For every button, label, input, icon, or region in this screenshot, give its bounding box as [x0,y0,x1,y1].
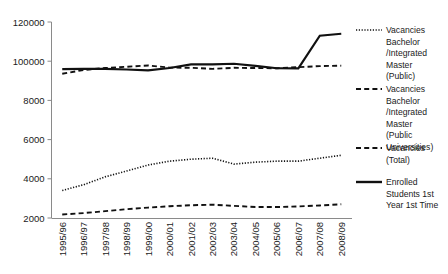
x-axis-tick-label: 2000/01 [164,222,175,256]
legend-item-label: Bachelor [386,96,420,106]
x-axis-tick-label: 2003/04 [228,222,239,256]
legend-item-label: Enrolled [386,177,418,187]
y-axis-tick-label: 2000 [23,213,44,224]
x-axis-tick-label: 2007/08 [314,222,325,256]
x-axis-tick-label: 1999/00 [143,222,154,256]
legend-item-label: /Integrated [386,107,427,117]
x-axis-tick-label: 2004/05 [250,222,261,256]
x-axis-tick-label: 1998/99 [121,222,132,256]
x-axis-tick-label: 1997/98 [100,222,111,256]
y-axis-tick-label: 4000 [23,173,44,184]
x-axis-tick-label: 2002/03 [207,222,218,256]
legend-item-label: (Public [386,130,413,140]
x-axis-tick-label: 2008/09 [336,222,347,256]
legend-item-label: Students 1st [386,189,434,199]
x-axis-tick-label: 1995/96 [57,222,68,256]
line-chart: 1200001000008000600040002000 1995/961996… [0,0,448,274]
legend-item-label: Master [386,60,412,70]
legend-item-label: /Integrated [386,48,427,58]
y-axis-tick-label: 6000 [23,134,44,145]
y-axis-tick-label: 100000 [13,56,45,67]
legend-item-label: (Public) [386,71,415,81]
x-axis-tick-label: 2001/02 [186,222,197,256]
legend-item-label: (Total) [386,155,410,165]
legend-item-label: Vacancies [386,25,425,35]
y-axis-tick-label: 8000 [23,95,44,106]
legend-item-label: Bachelor [386,37,420,47]
x-axis-tick-label: 2005/06 [271,222,282,256]
legend-item-label: Vacancies [386,84,425,94]
y-axis-tick-label: 120000 [13,17,45,28]
legend-item-label: Master [386,119,412,129]
legend-item-label: Year 1st Time [386,200,438,210]
x-axis-tick-label: 2006/07 [293,222,304,256]
chart-container: 1200001000008000600040002000 1995/961996… [0,0,448,274]
legend-item-label: Vacancies [386,143,425,153]
x-axis-tick-label: 1996/97 [78,222,89,256]
